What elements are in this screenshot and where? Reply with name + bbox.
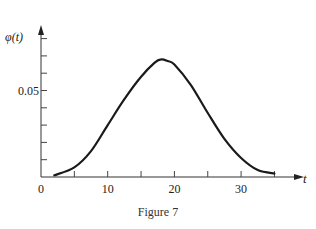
figure-caption: Figure 7 [0, 205, 316, 220]
axes [38, 25, 304, 180]
chart: 0.050102030 φ(t) t [0, 0, 316, 229]
x-tick-label: 20 [168, 182, 180, 196]
tick-labels: 0.050102030 [18, 84, 247, 197]
x-tick-label: 10 [102, 182, 114, 196]
x-tick-label: 0 [38, 182, 44, 196]
x-axis-label: t [303, 171, 307, 186]
y-tick-label: 0.05 [18, 84, 39, 98]
phi-curve [54, 59, 274, 175]
y-axis-arrow-icon [38, 25, 44, 35]
y-axis-label: φ(t) [5, 30, 23, 44]
x-tick-label: 30 [235, 182, 247, 196]
